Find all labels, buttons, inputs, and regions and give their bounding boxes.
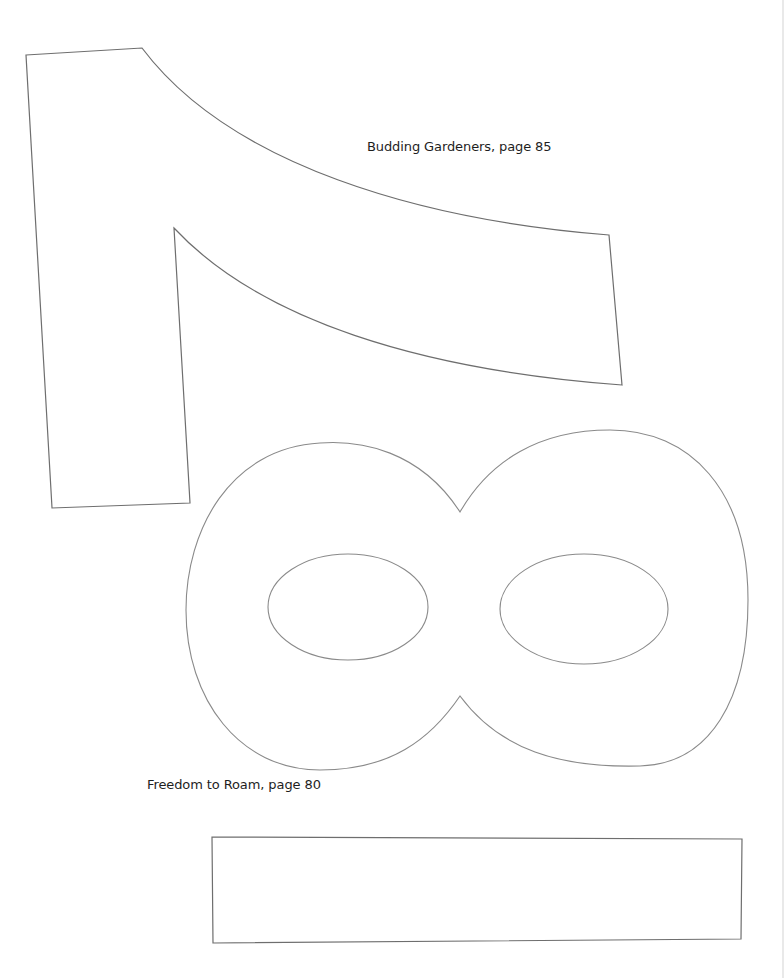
- numeral-eight-outline: [186, 430, 748, 770]
- caption-budding-gardeners: Budding Gardeners, page 85: [367, 139, 551, 154]
- numeral-one-outline: [26, 48, 622, 508]
- rectangle-outline: [212, 837, 742, 943]
- eight-right-hole: [500, 554, 668, 664]
- template-page: Budding Gardeners, page 85 Freedom to Ro…: [0, 0, 784, 978]
- eight-left-hole: [268, 554, 428, 660]
- caption-freedom-to-roam: Freedom to Roam, page 80: [147, 777, 321, 792]
